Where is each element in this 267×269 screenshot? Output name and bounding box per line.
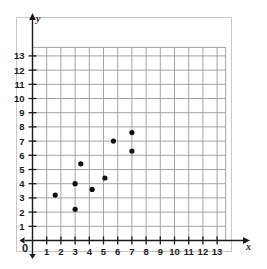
y-tick-label: 12 — [14, 65, 25, 76]
data-points — [53, 130, 135, 212]
data-point — [73, 181, 78, 186]
x-axis-label: x — [245, 241, 251, 252]
axis-lines — [20, 13, 251, 259]
data-point — [129, 130, 134, 135]
x-tick-label: 8 — [143, 246, 148, 257]
y-tick-label: 5 — [19, 164, 25, 175]
y-tick-label: 1 — [19, 221, 25, 232]
x-tick-label: 5 — [101, 246, 107, 257]
y-tick-label: 13 — [14, 50, 25, 61]
x-tick-label: 11 — [184, 246, 195, 257]
data-point — [90, 187, 95, 192]
origin-label: 0 — [22, 242, 28, 254]
data-point — [73, 207, 78, 212]
y-tick-label: 11 — [14, 79, 25, 90]
data-point — [111, 139, 116, 144]
data-point — [102, 175, 107, 180]
y-tick-label: 7 — [19, 136, 24, 147]
x-tick-label: 9 — [158, 246, 163, 257]
data-point — [53, 192, 58, 197]
plot-canvas: 12345678910111213 12345678910111213 x y … — [0, 0, 267, 269]
grid-lines — [33, 47, 226, 240]
x-tick-label: 1 — [44, 246, 50, 257]
y-tick-label: 9 — [19, 107, 24, 118]
x-tick-label: 6 — [115, 246, 120, 257]
x-tick-labels: 12345678910111213 — [44, 246, 222, 257]
x-tick-label: 13 — [212, 246, 223, 257]
data-point — [78, 161, 83, 166]
y-tick-labels: 12345678910111213 — [14, 50, 25, 231]
y-tick-label: 8 — [19, 121, 24, 132]
x-tick-label: 2 — [58, 246, 63, 257]
y-tick-label: 2 — [19, 207, 24, 218]
y-tick-label: 10 — [14, 93, 25, 104]
x-tick-label: 10 — [169, 246, 180, 257]
y-tick-label: 3 — [19, 192, 24, 203]
y-tick-label: 4 — [19, 178, 25, 189]
y-tick-label: 6 — [19, 150, 24, 161]
x-tick-label: 12 — [198, 246, 209, 257]
x-tick-label: 7 — [129, 246, 134, 257]
x-tick-label: 4 — [87, 246, 93, 257]
x-tick-label: 3 — [72, 246, 77, 257]
y-axis-label: y — [35, 13, 41, 24]
data-point — [129, 148, 134, 153]
scatter-plot-figure: 12345678910111213 12345678910111213 x y … — [0, 0, 267, 269]
